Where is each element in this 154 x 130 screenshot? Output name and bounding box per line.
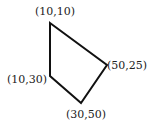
vertex-label-bottom: (30,50): [66, 109, 106, 120]
polygon-outline: [50, 23, 107, 103]
vertex-label-right: (50,25): [107, 60, 147, 71]
vertex-label-top: (10,10): [35, 6, 75, 17]
vertex-label-left: (10,30): [7, 74, 47, 85]
